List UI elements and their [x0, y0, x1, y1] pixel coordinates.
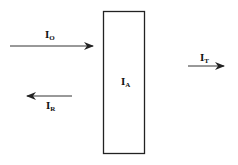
reflected-label: IR	[46, 100, 55, 113]
transmitted-label: IT	[200, 52, 209, 65]
incident-label: IO	[45, 29, 55, 42]
absorbed-label: IA	[121, 76, 130, 89]
diagram-canvas	[0, 0, 238, 165]
